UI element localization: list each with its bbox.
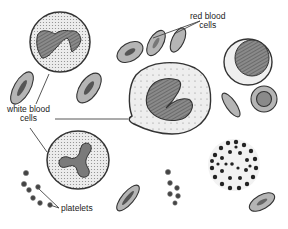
red-blood-cell xyxy=(251,86,277,112)
label-platelets: platelets xyxy=(61,204,93,213)
red-blood-cell xyxy=(167,26,189,55)
platelets-cluster-right xyxy=(165,169,180,205)
leader-white-lower xyxy=(30,128,47,152)
red-blood-cell xyxy=(113,182,143,214)
platelets-cluster-left xyxy=(21,170,52,207)
white-blood-cell-center xyxy=(129,63,210,134)
red-blood-cell xyxy=(6,68,38,107)
red-blood-cell xyxy=(72,69,106,107)
label-red-blood-cells: red blood cells xyxy=(190,12,225,30)
white-blood-cell-top-left xyxy=(30,12,90,72)
white-blood-cell-top-right xyxy=(224,39,272,85)
label-white-blood-cells: white blood cells xyxy=(7,105,50,123)
white-blood-cell-lower-left xyxy=(47,131,109,189)
leader-white-top xyxy=(36,74,49,104)
red-blood-cell xyxy=(246,189,277,215)
blood-cells-diagram: red blood cells white blood cells platel… xyxy=(0,0,288,229)
red-blood-cell xyxy=(113,37,146,67)
white-blood-cell-granulated xyxy=(208,139,260,191)
red-blood-cell xyxy=(143,27,169,58)
red-blood-cell xyxy=(219,91,243,120)
